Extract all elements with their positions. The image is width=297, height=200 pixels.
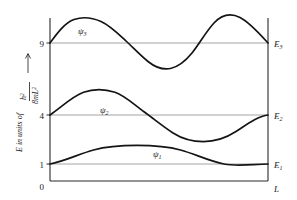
psi3-annotation: ψ3 (78, 26, 87, 37)
fraction-numerator: h2 (19, 93, 29, 100)
y-axis-arrow-icon (25, 54, 30, 74)
y-axis-label-group: E in units of h2 8mL2 (15, 54, 40, 154)
y-tick-label-1: 1 (40, 160, 45, 170)
energy-level-wavefunction-figure: E in units of h2 8mL2 9 4 1 0 L E3 E2 E1… (0, 0, 297, 200)
wavefunction-curve-psi2 (50, 89, 268, 141)
energy-label-E3: E3 (273, 39, 283, 50)
y-axis-label-prefix: E in units of (15, 111, 24, 153)
x-axis-label-L: L (273, 184, 279, 194)
y-tick-label-4: 4 (40, 111, 45, 121)
energy-label-E1: E1 (273, 160, 283, 171)
wavefunction-curve-psi3 (50, 15, 268, 69)
y-tick-label-9: 9 (40, 39, 45, 49)
fraction-denominator: 8mL2 (31, 87, 41, 104)
y-tick-label-0: 0 (40, 182, 45, 192)
psi2-annotation: ψ2 (100, 105, 109, 116)
energy-label-E2: E2 (273, 111, 283, 122)
psi1-annotation: ψ1 (153, 149, 162, 160)
